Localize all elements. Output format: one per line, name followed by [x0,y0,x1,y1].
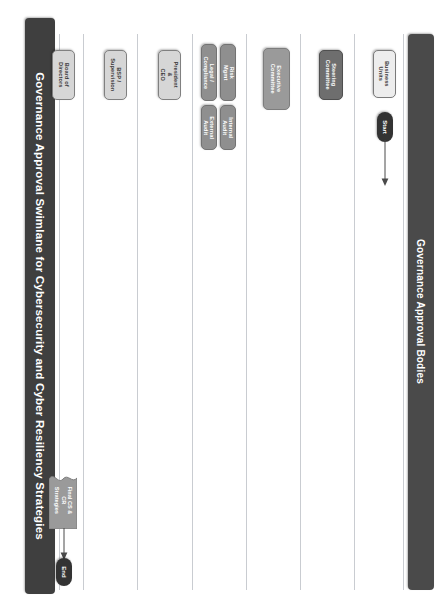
lane-bsp-supervision [84,34,138,590]
terminator-end[interactable]: End [56,558,72,586]
node-internal-audit-label: Internal Audit [222,117,235,138]
artifact-final-strategies[interactable]: Final CS & CR Strategies [49,471,77,529]
node-executive-committee[interactable]: Executive Committee [263,48,290,110]
node-risk-mgmt[interactable]: Risk Mgmt [220,44,236,101]
lane-executive-committee [247,34,301,590]
node-executive-committee-label: Executive Committee [270,64,283,94]
node-president-ceo[interactable]: President & CEO [158,50,181,100]
connector-start-to-flow [378,140,391,186]
node-external-audit[interactable]: External Audit [201,105,217,150]
node-bsp-supervision[interactable]: BSP / Supervision [104,50,127,100]
node-legal-compliance[interactable]: Legal / Compliance [201,44,217,101]
artifact-final-strategies-label: Final CS & CR Strategies [53,486,72,514]
terminator-end-label: End [61,566,67,577]
node-risk-mgmt-label: Risk Mgmt [222,65,235,80]
page-title: Governance Approval Swimlane for Cyberse… [34,72,46,540]
node-business-units-label: Business Units [378,61,391,87]
node-president-ceo-label: President & CEO [160,62,179,88]
swimlane-diagram: Governance Approval Swimlane for Cyberse… [0,0,438,612]
node-board-of-directors-label: Board of Directors [57,62,70,87]
node-internal-audit[interactable]: Internal Audit [220,105,236,150]
lane-group-header-label: Governance Approval Bodies [416,240,427,385]
connector-artifact-to-end [57,528,70,560]
node-steering-committee[interactable]: Steering Committee [319,50,343,100]
node-steering-committee-label: Steering Committee [325,60,338,90]
terminator-start[interactable]: Start [377,112,393,142]
node-bsp-supervision-label: BSP / Supervision [109,58,122,91]
lane-group-header: Governance Approval Bodies [408,34,434,590]
artifact-final-strategies-labelwrap: Final CS & CR Strategies [49,471,77,529]
lane-president-ceo [138,34,193,590]
lane-area: Business Units Steering Committee Execut… [59,34,404,590]
node-legal-compliance-label: Legal / Compliance [203,56,216,89]
node-business-units[interactable]: Business Units [373,50,396,98]
terminator-start-label: Start [382,120,388,134]
node-board-of-directors[interactable]: Board of Directors [52,50,75,100]
node-external-audit-label: External Audit [203,116,216,139]
lane-steering-committee [301,34,355,590]
diagram-canvas: Governance Approval Swimlane for Cyberse… [0,0,438,612]
